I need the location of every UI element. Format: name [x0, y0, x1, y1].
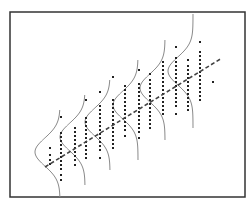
data-point: [175, 57, 177, 59]
data-point: [162, 89, 164, 91]
data-point: [187, 89, 189, 91]
data-point: [60, 164, 62, 166]
data-point: [199, 59, 201, 61]
data-point: [99, 129, 101, 131]
data-point: [74, 143, 76, 145]
data-point: [112, 147, 114, 149]
data-point: [187, 97, 189, 99]
data-point: [60, 144, 62, 146]
data-point: [149, 95, 151, 97]
data-point: [199, 91, 201, 93]
data-point: [124, 129, 126, 131]
data-point: [85, 137, 87, 139]
data-point: [138, 95, 140, 97]
data-point: [112, 76, 114, 78]
data-point: [199, 95, 201, 97]
data-point: [99, 109, 101, 111]
data-point: [112, 131, 114, 133]
data-point: [138, 123, 140, 125]
data-point: [124, 105, 126, 107]
data-point: [162, 73, 164, 75]
data-point: [124, 109, 126, 111]
data-point: [85, 133, 87, 135]
data-point: [138, 91, 140, 93]
data-point: [138, 111, 140, 113]
data-point: [175, 93, 177, 95]
data-point: [149, 103, 151, 105]
data-point: [187, 81, 189, 83]
data-point: [60, 116, 62, 118]
data-point: [138, 115, 140, 117]
data-point: [187, 65, 189, 67]
data-point: [99, 125, 101, 127]
data-point: [162, 97, 164, 99]
data-point: [60, 152, 62, 154]
data-point: [60, 148, 62, 150]
data-point: [99, 105, 101, 107]
data-point: [112, 127, 114, 129]
data-point: [112, 107, 114, 109]
data-point: [85, 129, 87, 131]
data-point: [175, 61, 177, 63]
data-point: [162, 81, 164, 83]
data-point: [124, 121, 126, 123]
data-point: [175, 97, 177, 99]
data-point: [162, 105, 164, 107]
data-point: [162, 113, 164, 115]
data-point: [124, 89, 126, 91]
data-point: [124, 125, 126, 127]
data-point: [149, 111, 151, 113]
data-point: [138, 99, 140, 101]
data-point: [124, 97, 126, 99]
data-point: [60, 140, 62, 142]
data-point: [60, 168, 62, 170]
data-point: [49, 154, 51, 156]
data-point: [99, 145, 101, 147]
data-point: [149, 99, 151, 101]
data-point: [162, 109, 164, 111]
data-point: [162, 65, 164, 67]
data-point: [199, 67, 201, 69]
data-point: [74, 135, 76, 137]
data-point: [124, 93, 126, 95]
data-point: [199, 51, 201, 53]
data-point: [124, 101, 126, 103]
data-point: [149, 79, 151, 81]
data-point: [99, 137, 101, 139]
data-point: [187, 101, 189, 103]
data-point: [74, 164, 76, 166]
data-point: [149, 91, 151, 93]
data-point: [99, 113, 101, 115]
data-point: [149, 87, 151, 89]
data-point: [85, 157, 87, 159]
data-point: [112, 99, 114, 101]
data-point: [138, 137, 140, 139]
data-point: [187, 105, 189, 107]
data-point: [99, 141, 101, 143]
data-point: [60, 132, 62, 134]
data-point: [212, 81, 214, 83]
data-point: [199, 83, 201, 85]
data-point: [149, 119, 151, 121]
data-point: [149, 83, 151, 85]
data-point: [74, 139, 76, 141]
data-point: [175, 113, 177, 115]
regression-distribution-diagram: [0, 0, 252, 211]
data-point: [162, 69, 164, 71]
data-point: [74, 151, 76, 153]
data-point: [112, 119, 114, 121]
data-point: [138, 69, 140, 71]
data-point: [49, 147, 51, 149]
data-point: [149, 115, 151, 117]
data-point: [175, 46, 177, 48]
data-point: [162, 77, 164, 79]
data-point: [175, 81, 177, 83]
data-point: [60, 160, 62, 162]
data-point: [85, 99, 87, 101]
data-point: [149, 73, 151, 75]
data-point: [187, 85, 189, 87]
data-point: [199, 41, 201, 43]
data-point: [187, 69, 189, 71]
data-point: [74, 127, 76, 129]
data-point: [175, 65, 177, 67]
